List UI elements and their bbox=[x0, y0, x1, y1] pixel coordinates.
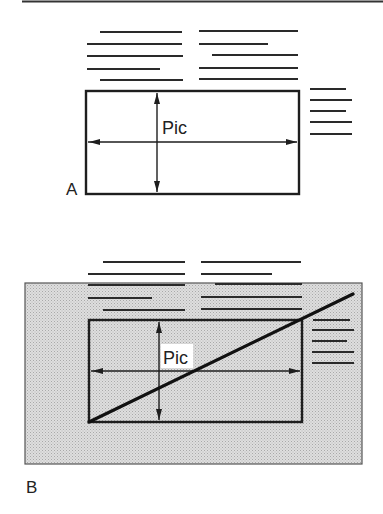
arrowhead-down-icon bbox=[154, 181, 160, 192]
panel-label: A bbox=[66, 180, 78, 199]
arrowhead-up-icon bbox=[154, 93, 160, 104]
picture-label: Pic bbox=[162, 118, 187, 138]
arrowhead-right-icon bbox=[286, 139, 297, 145]
layout-diagram: PicA PicB bbox=[0, 0, 383, 514]
panel-label: B bbox=[26, 478, 37, 497]
panel-b-bleed-shaded: PicB bbox=[25, 262, 362, 497]
arrowhead-left-icon bbox=[89, 139, 100, 145]
picture-label: Pic bbox=[163, 348, 188, 368]
panel-a-no-bleed: PicA bbox=[66, 31, 352, 199]
shaded-bleed-area bbox=[25, 283, 362, 464]
